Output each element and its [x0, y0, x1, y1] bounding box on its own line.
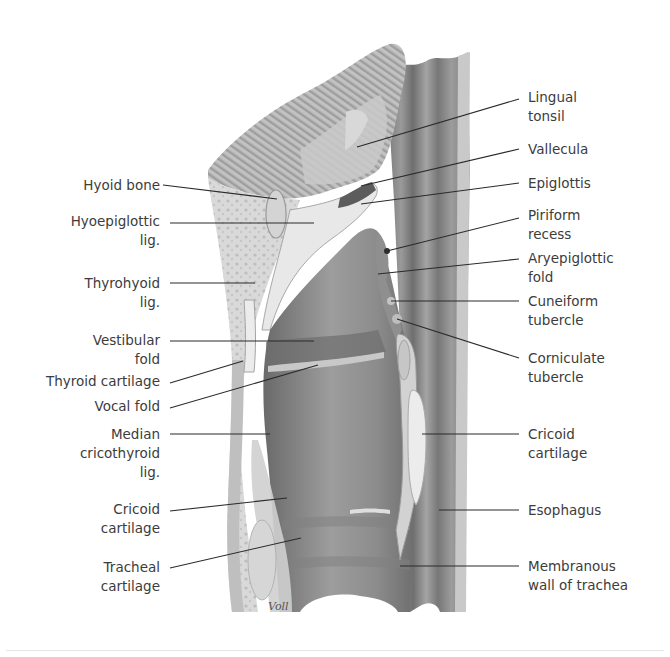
label-tracheal-cartilage: Tracheal cartilage [64, 558, 160, 596]
label-membranous-wall-of-trachea: Membranous wall of trachea [528, 557, 668, 595]
label-cuneiform-tubercle: Cuneiform tubercle [528, 292, 648, 330]
label-cricoid-cartilage-right: Cricoid cartilage [528, 425, 648, 463]
label-esophagus: Esophagus [528, 501, 648, 520]
artist-signature: Voll [268, 600, 289, 613]
thyroid-cartilage-shape [244, 300, 256, 372]
label-cricoid-cartilage-left: Cricoid cartilage [64, 500, 160, 538]
label-vocal-fold: Vocal fold [64, 397, 160, 416]
label-aryepiglottic-fold: Aryepiglottic fold [528, 249, 648, 287]
label-hyoepiglottic-lig: Hyoepiglottic lig. [64, 212, 160, 250]
tongue-base [208, 44, 406, 199]
label-epiglottis: Epiglottis [528, 174, 648, 193]
label-median-cricothyroid-lig: Median cricothyroid lig. [64, 425, 160, 482]
label-vallecula: Vallecula [528, 140, 648, 159]
label-thyroid-cartilage: Thyroid cartilage [30, 372, 160, 391]
hyoid-bone-shape [266, 190, 286, 238]
label-piriform-recess: Piriform recess [528, 206, 648, 244]
label-lingual-tonsil: Lingual tonsil [528, 88, 648, 126]
label-thyrohyoid-lig: Thyrohyoid lig. [64, 274, 160, 312]
label-corniculate-tubercle: Corniculate tubercle [528, 349, 648, 387]
label-hyoid-bone: Hyoid bone [78, 176, 160, 195]
label-vestibular-fold: Vestibular fold [64, 331, 160, 369]
bottom-rule [6, 650, 664, 651]
